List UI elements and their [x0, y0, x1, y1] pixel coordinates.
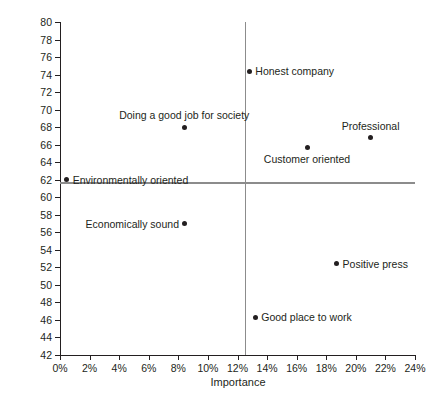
- data-point-marker[interactable]: [253, 315, 258, 320]
- data-point-label: Economically sound: [86, 218, 179, 229]
- y-axis-tick-label: 56: [40, 227, 52, 238]
- x-axis-tick: [119, 355, 120, 360]
- y-axis-tick: [55, 320, 60, 321]
- x-axis-tick-label: 0%: [52, 363, 67, 374]
- y-axis-tick-label: 46: [40, 315, 52, 326]
- x-axis-title: Importance: [60, 376, 416, 388]
- data-point-marker[interactable]: [368, 135, 373, 140]
- y-axis-tick-label: 42: [40, 350, 52, 361]
- y-axis-tick-label: 74: [40, 69, 52, 80]
- y-axis-tick-label: 54: [40, 245, 52, 256]
- y-axis-tick-label: 80: [40, 17, 52, 28]
- y-axis-tick-label: 70: [40, 104, 52, 115]
- x-axis-tick-label: 6%: [141, 363, 156, 374]
- data-point-label: Honest company: [255, 66, 334, 77]
- data-point-marker[interactable]: [247, 69, 252, 74]
- x-axis-tick: [385, 355, 386, 360]
- y-axis-tick-label: 60: [40, 192, 52, 203]
- data-point-label: Good place to work: [261, 312, 351, 323]
- y-axis-tick: [55, 302, 60, 303]
- x-axis-tick-label: 12%: [227, 363, 248, 374]
- y-axis-tick-label: 64: [40, 157, 52, 168]
- y-axis-tick: [55, 215, 60, 216]
- y-axis-tick-label: 76: [40, 52, 52, 63]
- x-axis-tick-label: 18%: [316, 363, 337, 374]
- y-axis-tick-label: 58: [40, 210, 52, 221]
- y-axis-tick: [55, 40, 60, 41]
- y-axis-tick: [55, 162, 60, 163]
- y-axis-tick: [55, 22, 60, 23]
- x-axis-tick-label: 10%: [197, 363, 218, 374]
- y-axis-tick: [55, 75, 60, 76]
- y-axis-tick-label: 62: [40, 174, 52, 185]
- y-axis-tick: [55, 92, 60, 93]
- y-axis-tick: [55, 337, 60, 338]
- y-axis-tick-label: 48: [40, 297, 52, 308]
- y-axis-tick: [55, 145, 60, 146]
- x-axis-tick-label: 2%: [82, 363, 97, 374]
- x-axis-tick: [415, 355, 416, 360]
- y-axis-line: [60, 22, 61, 356]
- data-point-label: Professional: [342, 120, 400, 131]
- y-axis-tick: [55, 180, 60, 181]
- data-point-marker[interactable]: [182, 221, 187, 226]
- x-axis-tick: [356, 355, 357, 360]
- y-axis-tick: [55, 127, 60, 128]
- x-axis-tick: [149, 355, 150, 360]
- y-axis-tick-label: 72: [40, 87, 52, 98]
- x-axis-tick-label: 14%: [257, 363, 278, 374]
- x-axis-tick-label: 24%: [404, 363, 425, 374]
- x-axis-tick: [267, 355, 268, 360]
- x-axis-tick: [178, 355, 179, 360]
- y-axis-tick: [55, 232, 60, 233]
- y-axis-tick-label: 52: [40, 262, 52, 273]
- y-axis-tick-label: 50: [40, 280, 52, 291]
- y-axis-tick: [55, 267, 60, 268]
- data-point-marker[interactable]: [334, 261, 339, 266]
- y-axis-tick-label: 66: [40, 139, 52, 150]
- x-axis-tick-label: 16%: [286, 363, 307, 374]
- y-axis-tick: [55, 285, 60, 286]
- x-axis-tick: [90, 355, 91, 360]
- x-axis-tick: [238, 355, 239, 360]
- data-point-marker[interactable]: [305, 145, 310, 150]
- x-axis-tick: [326, 355, 327, 360]
- data-point-label: Doing a good job for society: [119, 110, 249, 121]
- y-axis-tick: [55, 197, 60, 198]
- data-point-label: Positive press: [343, 259, 408, 270]
- x-axis-tick-label: 22%: [375, 363, 396, 374]
- y-axis-tick-label: 78: [40, 34, 52, 45]
- data-point-label: Customer oriented: [264, 154, 350, 165]
- x-axis-tick-label: 4%: [112, 363, 127, 374]
- y-axis-tick: [55, 110, 60, 111]
- x-axis-tick: [208, 355, 209, 360]
- data-point-label: Environmentally oriented: [73, 174, 189, 185]
- scatter-chart: 4244464850525456586062646668707274767880…: [0, 0, 443, 416]
- x-axis-tick-label: 8%: [171, 363, 186, 374]
- data-point-marker[interactable]: [182, 125, 187, 130]
- y-axis-tick-label: 44: [40, 332, 52, 343]
- x-axis-tick-label: 20%: [345, 363, 366, 374]
- x-axis-tick: [297, 355, 298, 360]
- y-axis-tick-label: 68: [40, 122, 52, 133]
- y-axis-tick: [55, 250, 60, 251]
- x-axis-tick: [60, 355, 61, 360]
- y-axis-tick: [55, 57, 60, 58]
